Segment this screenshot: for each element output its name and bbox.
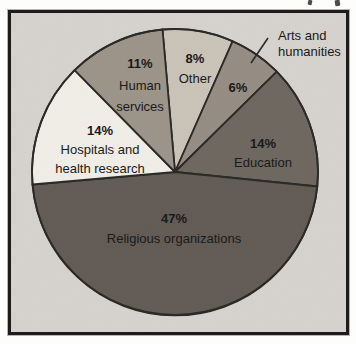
pie-chart: 8%Other6%Arts andhumanities14%Education4… [0, 0, 356, 344]
scan-grain-overlay [11, 13, 346, 332]
scanned-figure-page: 8%Other6%Arts andhumanities14%Education4… [0, 0, 356, 344]
